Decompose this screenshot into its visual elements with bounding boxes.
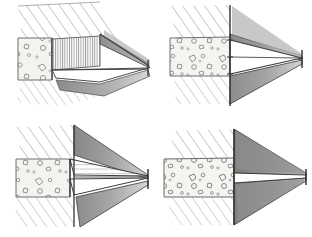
figure-canvas (0, 0, 312, 237)
panel-top-right (156, 0, 312, 118)
panel-bottom-right (156, 119, 312, 237)
panel-top-left (0, 0, 156, 118)
panel-bottom-left (0, 119, 156, 237)
